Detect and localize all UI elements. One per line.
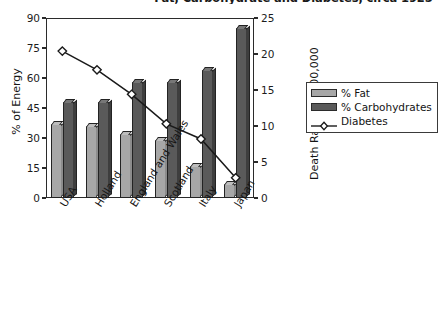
y-axis-left-title: % of Energy — [11, 60, 22, 144]
y-axis-right-tick-10: 10 — [261, 121, 287, 132]
legend-item-fat[interactable]: % Fat — [311, 86, 432, 100]
y-axis-right-tick-mark — [254, 197, 258, 199]
y-axis-right-tick-mark — [254, 89, 258, 91]
y-axis-right-tick-mark — [254, 53, 258, 55]
legend-swatch-fat — [311, 89, 337, 97]
diabetes-marker-0 — [58, 47, 66, 55]
y-axis-right-tick-mark — [254, 125, 258, 127]
legend-label-carbohydrates: % Carbohydrates — [341, 101, 432, 113]
y-axis-right-tick-15: 15 — [261, 85, 287, 96]
y-axis-right-tick-20: 20 — [261, 49, 287, 60]
legend-label-diabetes: Diabetes — [341, 115, 388, 127]
legend-swatch-carbohydrates — [311, 103, 337, 111]
diabetes-line-path — [62, 51, 235, 178]
y-axis-left-tick-0: 0 — [16, 193, 40, 204]
y-axis-right-tick-mark — [254, 161, 258, 163]
chart-legend: % Fat % Carbohydrates Diabetes — [306, 82, 438, 133]
y-axis-right-tick-5: 5 — [261, 157, 287, 168]
y-axis-right-tick-25: 25 — [261, 13, 287, 24]
legend-marker-diabetes-icon — [311, 116, 337, 126]
y-axis-left-tick-75: 75 — [16, 43, 40, 54]
legend-item-diabetes[interactable]: Diabetes — [311, 114, 432, 128]
y-axis-right-tick-0: 0 — [261, 193, 287, 204]
legend-item-carbohydrates[interactable]: % Carbohydrates — [311, 100, 432, 114]
legend-label-fat: % Fat — [341, 87, 370, 99]
y-axis-left-tick-90: 90 — [16, 13, 40, 24]
chart-title: Fat, Carbohydrate and Diabetes, circa 19… — [150, 0, 437, 4]
y-axis-right-tick-mark — [254, 17, 258, 19]
y-axis-left-tick-15: 15 — [16, 163, 40, 174]
